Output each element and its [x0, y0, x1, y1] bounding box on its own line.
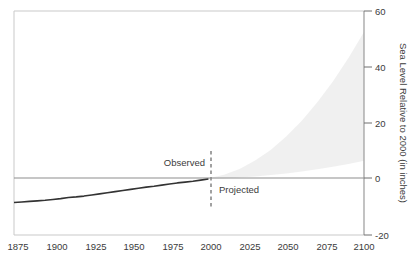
xtick-label-1950: 1950 — [123, 241, 144, 252]
annotation-observed: Observed — [164, 157, 205, 168]
projected-range-band — [208, 32, 364, 179]
annotation-projected: Projected — [219, 184, 259, 195]
xtick-label-1975: 1975 — [162, 241, 183, 252]
chart-canvas: 60 40 20 0 -20 1875 1900 1925 1950 1975 … — [0, 0, 413, 259]
xtick-label-2075: 2075 — [316, 241, 337, 252]
y-axis-title: Sea Level Relative to 2000 (in inches) — [398, 43, 409, 203]
xtick-label-2050: 2050 — [277, 241, 298, 252]
xtick-label-2025: 2025 — [239, 241, 260, 252]
y-axis-tick-labels: 60 40 20 0 -20 — [375, 6, 389, 241]
ytick-label-neg20: -20 — [375, 230, 389, 241]
xtick-label-1925: 1925 — [85, 241, 106, 252]
y-axis-ticks — [364, 11, 372, 235]
sea-level-chart: 60 40 20 0 -20 1875 1900 1925 1950 1975 … — [0, 0, 413, 259]
ytick-label-20: 20 — [375, 118, 386, 129]
x-axis-tick-labels: 1875 1900 1925 1950 1975 2000 2025 2050 … — [7, 241, 374, 252]
xtick-label-1900: 1900 — [46, 241, 67, 252]
xtick-label-2000: 2000 — [200, 241, 221, 252]
ytick-label-0: 0 — [375, 173, 380, 184]
observed-series-line — [14, 179, 208, 203]
xtick-label-1875: 1875 — [7, 241, 28, 252]
ytick-label-40: 40 — [375, 62, 386, 73]
ytick-label-60: 60 — [375, 6, 386, 17]
xtick-label-2100: 2100 — [353, 241, 374, 252]
